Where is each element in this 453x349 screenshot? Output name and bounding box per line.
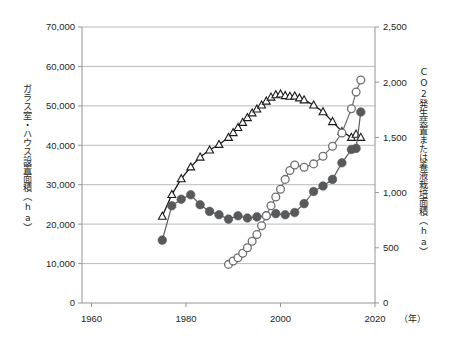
data-point-open-circle	[262, 212, 270, 220]
x-axis-tick-label: 2020	[364, 313, 385, 324]
left-axis-tick-label: 60,000	[46, 61, 75, 72]
right-axis-tick-label: 0	[383, 297, 388, 308]
right-axis-tick-label: 2,500	[383, 21, 407, 32]
data-point-open-circle	[253, 231, 261, 239]
data-point-open-circle	[272, 193, 280, 201]
data-point-filled-circle	[196, 200, 205, 209]
left-axis-tick-label: 0	[70, 297, 75, 308]
data-point-filled-circle	[186, 191, 195, 200]
data-point-open-circle	[300, 163, 308, 171]
x-axis-unit-label: （年）	[399, 313, 426, 324]
data-point-filled-circle	[158, 236, 167, 245]
data-point-open-circle	[338, 129, 346, 137]
data-point-open-circle	[267, 202, 275, 210]
data-point-triangle	[215, 140, 223, 147]
left-axis-tick-label: 20,000	[46, 219, 75, 230]
right-axis-tick-label: 1,500	[383, 132, 407, 143]
data-point-triangle	[168, 191, 176, 198]
right-axis-tick-label: 500	[383, 242, 399, 253]
data-point-filled-circle	[309, 187, 318, 196]
data-point-triangle	[196, 153, 204, 160]
data-point-open-circle	[258, 222, 266, 230]
data-point-filled-circle	[224, 215, 233, 224]
data-point-open-circle	[277, 185, 285, 193]
series-line	[229, 80, 361, 264]
line-chart: 010,00020,00030,00040,00050,00060,00070,…	[0, 0, 453, 349]
data-point-filled-circle	[290, 208, 299, 217]
x-axis-tick-label: 1980	[175, 313, 196, 324]
data-point-filled-circle	[300, 199, 309, 208]
left-axis-tick-label: 40,000	[46, 140, 75, 151]
data-series	[158, 76, 365, 268]
data-point-open-circle	[319, 152, 327, 160]
data-point-filled-circle	[205, 207, 214, 216]
data-point-open-circle	[291, 161, 299, 169]
left-axis-tick-label: 10,000	[46, 258, 75, 269]
data-point-triangle	[158, 212, 166, 219]
data-point-filled-circle	[168, 202, 177, 211]
data-point-open-circle	[310, 160, 318, 168]
data-point-filled-circle	[319, 182, 328, 191]
chart-container: 010,00020,00030,00040,00050,00060,00070,…	[0, 0, 453, 349]
data-point-filled-circle	[243, 214, 252, 223]
left-axis-tick-label: 30,000	[46, 179, 75, 190]
data-point-filled-circle	[328, 175, 337, 184]
x-axis-tick-label: 2000	[270, 313, 291, 324]
data-point-triangle	[206, 146, 214, 153]
x-axis-tick-label: 1960	[81, 313, 102, 324]
series-open-triangle	[158, 90, 364, 219]
data-point-open-circle	[281, 176, 289, 184]
right-axis-tick-label: 1,000	[383, 187, 407, 198]
data-point-filled-circle	[253, 213, 262, 222]
data-point-open-circle	[329, 142, 337, 150]
data-point-open-circle	[348, 105, 356, 113]
data-point-filled-circle	[352, 144, 361, 153]
left-axis-title: ガラス室・ハウス設置面積（ha）	[22, 84, 32, 284]
data-point-open-circle	[352, 88, 360, 96]
right-axis-tick-label: 2,000	[383, 77, 407, 88]
data-point-filled-circle	[281, 210, 290, 219]
data-point-filled-circle	[357, 108, 366, 117]
right-axis-title: CO2発生装置または養液栽培面積（ha）	[418, 66, 428, 302]
data-point-triangle	[310, 101, 318, 108]
data-point-filled-circle	[272, 209, 281, 218]
series-open-circle	[225, 76, 365, 268]
data-point-filled-circle	[215, 210, 224, 219]
data-point-filled-circle	[338, 159, 347, 168]
data-point-open-circle	[357, 76, 365, 84]
data-point-filled-circle	[234, 212, 243, 221]
data-point-filled-circle	[177, 195, 186, 204]
left-axis-tick-label: 70,000	[46, 21, 75, 32]
left-axis-tick-label: 50,000	[46, 100, 75, 111]
data-point-triangle	[319, 108, 327, 115]
